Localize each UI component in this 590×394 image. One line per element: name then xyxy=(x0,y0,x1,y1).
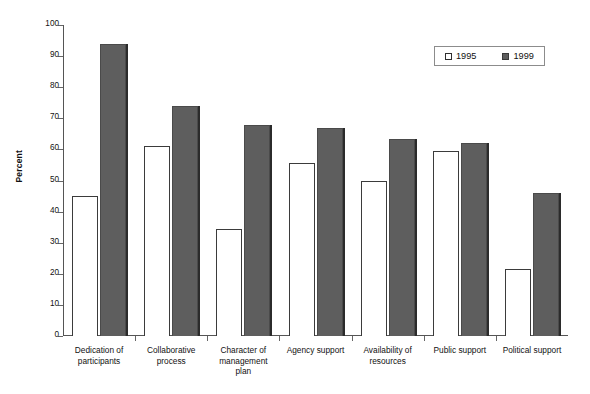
bar-1999 xyxy=(100,44,126,336)
x-tick-mark xyxy=(424,336,425,341)
legend-label: 1995 xyxy=(456,51,476,61)
y-tick-label: 60 xyxy=(50,143,59,152)
y-axis-title: Percent xyxy=(14,150,30,183)
bar-group xyxy=(505,25,559,336)
bar-group xyxy=(144,25,198,336)
bar-1995 xyxy=(433,151,459,336)
bar-group xyxy=(361,25,415,336)
bar-group xyxy=(433,25,487,336)
bar-group xyxy=(216,25,270,336)
category-label: Political support xyxy=(489,345,575,356)
bar-1995 xyxy=(289,163,315,336)
x-tick-mark xyxy=(135,336,136,341)
bar-1995 xyxy=(216,229,242,336)
bar-group xyxy=(72,25,126,336)
y-tick-label: 90 xyxy=(50,50,59,59)
bar-chart: Percent 1009080706050403020100 Dedicatio… xyxy=(0,0,590,394)
bar-1995 xyxy=(361,181,387,337)
bar-1999 xyxy=(533,193,559,336)
category-label-line: plan xyxy=(200,366,286,377)
category-label-line: resources xyxy=(345,356,431,367)
bar-1995 xyxy=(144,146,170,336)
y-tick-label: 50 xyxy=(50,175,59,184)
bar-1995 xyxy=(72,196,98,336)
bar-1999 xyxy=(172,106,198,336)
x-tick-mark xyxy=(279,336,280,341)
y-tick-label: 80 xyxy=(50,81,59,90)
legend-label: 1999 xyxy=(513,51,533,61)
legend-entry-1995: 1995 xyxy=(445,51,476,61)
y-axis-line xyxy=(63,25,64,336)
bar-1995 xyxy=(505,269,531,336)
y-tick-label: 70 xyxy=(50,112,59,121)
x-tick-mark xyxy=(207,336,208,341)
bar-1999 xyxy=(317,128,343,336)
legend-swatch-filled-square xyxy=(502,53,509,60)
y-tick-label: 30 xyxy=(50,237,59,246)
category-label-line: Political support xyxy=(489,345,575,356)
chart-legend: 19951999 xyxy=(434,46,545,66)
bar-1999 xyxy=(244,125,270,336)
x-tick-mark xyxy=(496,336,497,341)
legend-entry-1999: 1999 xyxy=(502,51,533,61)
y-tick-label: 20 xyxy=(50,268,59,277)
y-tick-label: 10 xyxy=(50,299,59,308)
y-tick-label: 40 xyxy=(50,206,59,215)
bar-1999 xyxy=(389,139,415,336)
y-tick-label: 0 xyxy=(54,330,59,339)
legend-swatch-hollow-square xyxy=(445,53,452,60)
category-label-line: management xyxy=(200,356,286,367)
bar-1999 xyxy=(461,143,487,336)
x-tick-mark xyxy=(352,336,353,341)
y-tick-label: 100 xyxy=(45,19,59,28)
plot-area: 1009080706050403020100 xyxy=(63,25,568,336)
bar-group xyxy=(289,25,343,336)
